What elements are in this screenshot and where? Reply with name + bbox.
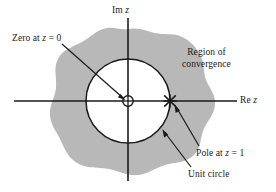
region-annotation-line1: Region of xyxy=(187,47,226,57)
region-annotation-label: Region ofconvergence xyxy=(182,47,231,70)
region-of-convergence-shading xyxy=(0,0,276,192)
zero-annotation-prefix: Zero at xyxy=(12,33,40,43)
real-axis-label-var: z xyxy=(253,95,257,105)
zero-annotation-suffix: = 0 xyxy=(49,33,62,43)
imaginary-axis-label: Im z xyxy=(112,5,129,17)
pole-marker-icon xyxy=(163,94,177,108)
zero-marker-icon xyxy=(122,95,134,107)
pole-annotation-prefix: Pole at xyxy=(196,148,223,158)
imaginary-axis-label-var: z xyxy=(125,5,129,15)
pole-annotation-label: Pole at z = 1 xyxy=(196,148,244,160)
real-axis-label: Re z xyxy=(240,95,257,107)
pole-annotation-suffix: = 1 xyxy=(232,148,245,158)
real-axis-label-prefix: Re xyxy=(240,95,251,105)
pole-annotation-var: z xyxy=(225,148,229,158)
unit-circle-annotation-label: Unit circle xyxy=(188,169,229,181)
complex-plane-figure: Im z Re z Zero at z = 0 Region ofconverg… xyxy=(0,0,276,192)
imaginary-axis-label-prefix: Im xyxy=(112,5,123,15)
zero-annotation-label: Zero at z = 0 xyxy=(12,33,61,45)
region-annotation-line2: convergence xyxy=(182,59,231,69)
zero-annotation-var: z xyxy=(42,33,46,43)
figure-canvas xyxy=(0,0,276,192)
